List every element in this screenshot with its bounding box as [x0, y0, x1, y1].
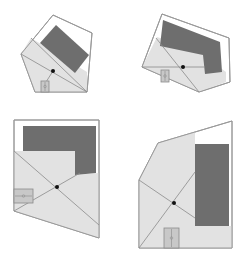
floorplan-diagrams — [0, 0, 244, 260]
panel-top-left-bottom — [14, 120, 99, 238]
viewpoint-marker — [51, 69, 55, 73]
panel-bottom-right — [139, 121, 232, 248]
viewpoint-marker — [55, 185, 59, 189]
viewpoint-marker — [181, 65, 185, 69]
panel-top-right — [142, 14, 230, 92]
viewpoint-marker — [172, 201, 176, 205]
panel-top-left — [21, 15, 92, 92]
obstacle — [195, 144, 229, 226]
